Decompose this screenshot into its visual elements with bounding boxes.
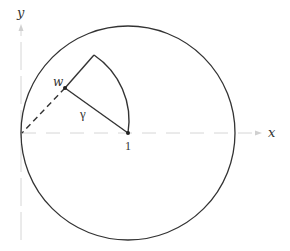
diagram-canvas: y x w γ 1 — [0, 0, 290, 251]
point-w-label: w — [53, 75, 64, 89]
segment-w-corner — [65, 55, 94, 88]
path-gamma-label: γ — [79, 106, 86, 121]
point-one — [126, 131, 130, 135]
x-axis-arrow-icon — [255, 131, 262, 136]
y-axis-arrow-icon — [19, 24, 24, 31]
point-one-label: 1 — [125, 139, 131, 153]
point-w — [63, 86, 67, 90]
y-axis-label: y — [16, 5, 25, 20]
path-gamma — [65, 88, 128, 133]
x-axis-label: x — [268, 125, 276, 140]
